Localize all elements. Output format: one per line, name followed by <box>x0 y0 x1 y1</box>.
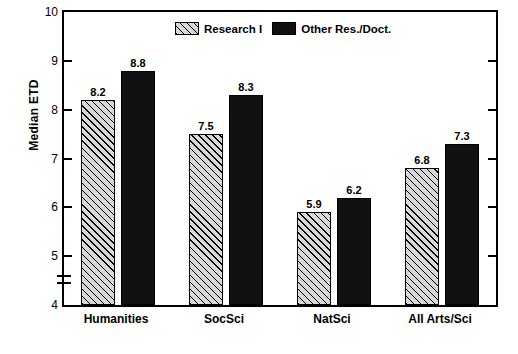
legend-item-research-i: Research I <box>175 22 262 35</box>
plot-area: 456789108.28.87.58.35.96.26.87.3 <box>62 10 498 307</box>
y-axis-tick-label: 7 <box>51 152 64 166</box>
bar-group: 8.28.8 <box>64 12 172 305</box>
bar-value-label: 8.2 <box>90 86 105 98</box>
bar-value-label: 7.5 <box>198 120 213 132</box>
bar-value-label: 6.8 <box>414 154 429 166</box>
y-axis-tick-label: 5 <box>51 249 64 263</box>
bar-other-res-doct: 8.3 <box>229 95 263 305</box>
bar-chart: Median ETD 456789108.28.87.58.35.96.26.8… <box>0 0 518 354</box>
legend-label-other-res-doct: Other Res./Doct. <box>301 23 391 35</box>
y-axis-tick-label: 4 <box>51 298 64 312</box>
x-axis-tick-label: SocSci <box>204 312 244 326</box>
bar-research-i: 8.2 <box>81 100 115 305</box>
bar-research-i: 7.5 <box>189 134 223 305</box>
y-axis-tick-label: 9 <box>51 54 64 68</box>
x-axis-tick-label: All Arts/Sci <box>408 312 472 326</box>
bar-research-i: 5.9 <box>297 212 331 305</box>
bar-value-label: 8.8 <box>130 57 145 69</box>
y-axis-tick-label: 6 <box>51 200 64 214</box>
legend-label-research-i: Research I <box>204 23 262 35</box>
legend-item-other-res-doct: Other Res./Doct. <box>272 22 391 35</box>
bar-other-res-doct: 8.8 <box>121 71 155 305</box>
x-axis-tick-label: NatSci <box>313 312 350 326</box>
bar-value-label: 7.3 <box>454 130 469 142</box>
bar-group: 5.96.2 <box>280 12 388 305</box>
bar-group: 6.87.3 <box>388 12 496 305</box>
chart-legend: Research I Other Res./Doct. <box>175 22 391 35</box>
legend-swatch-hatched-icon <box>175 22 199 35</box>
bar-group: 7.58.3 <box>172 12 280 305</box>
bar-other-res-doct: 7.3 <box>445 144 479 305</box>
y-axis-tick-label: 8 <box>51 103 64 117</box>
y-axis-tick-label: 10 <box>45 5 64 19</box>
legend-swatch-solid-icon <box>272 22 296 35</box>
bar-research-i: 6.8 <box>405 168 439 305</box>
bar-other-res-doct: 6.2 <box>337 198 371 305</box>
y-axis-label: Median ETD <box>27 55 41 175</box>
bar-value-label: 8.3 <box>238 81 253 93</box>
x-axis-tick-label: Humanities <box>84 312 149 326</box>
bar-value-label: 6.2 <box>346 184 361 196</box>
bar-value-label: 5.9 <box>306 198 321 210</box>
